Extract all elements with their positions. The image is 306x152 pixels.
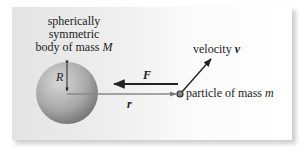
radius-label: R bbox=[55, 70, 64, 84]
physics-diagram: R r F bbox=[0, 0, 306, 152]
velocity-label: velocity v bbox=[193, 43, 240, 56]
mass-m-symbol: m bbox=[265, 86, 274, 100]
velocity-v-symbol: v bbox=[235, 42, 240, 56]
distance-label: r bbox=[127, 97, 132, 111]
particle bbox=[177, 91, 183, 97]
particle-label: particle of mass m bbox=[186, 87, 274, 100]
force-label: F bbox=[142, 68, 151, 82]
